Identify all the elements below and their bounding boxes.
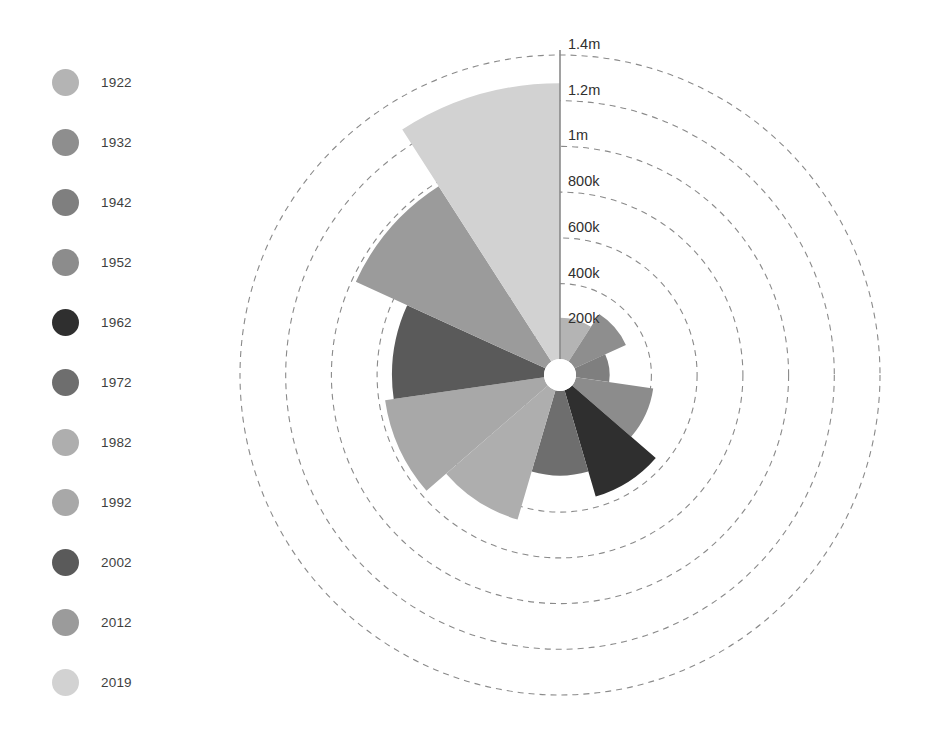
grid-ring-400k — [469, 284, 652, 467]
wedge-1932[interactable] — [569, 314, 626, 368]
legend-item[interactable]: 1942 — [52, 172, 202, 232]
grid-ring-200k — [514, 329, 605, 420]
wedge-1992[interactable] — [385, 377, 548, 490]
chart-page: 1922193219421952196219721982199220022012… — [0, 0, 943, 740]
legend-label: 1952 — [101, 255, 132, 270]
grid-ring-1.4m — [240, 55, 880, 695]
legend: 1922193219421952196219721982199220022012… — [52, 52, 202, 712]
wedge-1922[interactable] — [560, 318, 591, 362]
legend-label: 1932 — [101, 135, 132, 150]
legend-swatch-1942 — [52, 189, 79, 216]
legend-label: 2012 — [101, 615, 132, 630]
center-hole — [544, 359, 576, 391]
legend-swatch-1952 — [52, 249, 79, 276]
wedge-2012[interactable] — [356, 186, 552, 368]
legend-item[interactable]: 1932 — [52, 112, 202, 172]
legend-item[interactable]: 1952 — [52, 232, 202, 292]
wedge-1982[interactable] — [446, 385, 555, 519]
radial-tick-label-600k: 600k — [568, 219, 600, 235]
radial-tick-label-1m: 1m — [568, 127, 588, 143]
center-hole-circle — [544, 359, 576, 391]
legend-swatch-2002 — [52, 549, 79, 576]
legend-swatch-1922 — [52, 69, 79, 96]
legend-swatch-1932 — [52, 129, 79, 156]
radial-tick-label-800k: 800k — [568, 173, 600, 189]
legend-item[interactable]: 1922 — [52, 52, 202, 112]
radial-tick-label-400k: 400k — [568, 265, 600, 281]
legend-item[interactable]: 2019 — [52, 652, 202, 712]
legend-swatch-2012 — [52, 609, 79, 636]
legend-label: 2002 — [101, 555, 132, 570]
legend-swatch-1962 — [52, 309, 79, 336]
legend-item[interactable]: 1972 — [52, 352, 202, 412]
legend-label: 1922 — [101, 75, 132, 90]
wedge-2002[interactable] — [392, 305, 545, 399]
legend-label: 1962 — [101, 315, 132, 330]
grid-ring-1.2m — [286, 101, 835, 650]
legend-label: 1942 — [101, 195, 132, 210]
wedge-1962[interactable] — [565, 385, 656, 496]
legend-item[interactable]: 1962 — [52, 292, 202, 352]
legend-swatch-1972 — [52, 369, 79, 396]
legend-swatch-2019 — [52, 669, 79, 696]
legend-item[interactable]: 1982 — [52, 412, 202, 472]
grid-ring-1m — [331, 146, 788, 603]
wedge-1942[interactable] — [575, 354, 610, 382]
legend-item[interactable]: 2012 — [52, 592, 202, 652]
grid-ring-600k — [423, 238, 697, 512]
legend-label: 1972 — [101, 375, 132, 390]
wedge-2019[interactable] — [402, 83, 560, 361]
radial-tick-label-1.2m: 1.2m — [568, 82, 600, 98]
legend-label: 1982 — [101, 435, 132, 450]
wedge-1972[interactable] — [532, 390, 589, 475]
legend-label: 2019 — [101, 675, 132, 690]
chart-wedges — [356, 83, 656, 519]
wedge-1952[interactable] — [572, 377, 653, 436]
legend-label: 1992 — [101, 495, 132, 510]
legend-item[interactable]: 1992 — [52, 472, 202, 532]
legend-swatch-1982 — [52, 429, 79, 456]
grid-rings — [240, 55, 880, 695]
radial-tick-label-1.4m: 1.4m — [568, 36, 600, 52]
radial-tick-label-200k: 200k — [568, 310, 600, 326]
legend-swatch-1992 — [52, 489, 79, 516]
grid-ring-800k — [377, 192, 743, 558]
legend-item[interactable]: 2002 — [52, 532, 202, 592]
radial-tick-labels: 200k400k600k800k1m1.2m1.4m — [568, 36, 600, 326]
